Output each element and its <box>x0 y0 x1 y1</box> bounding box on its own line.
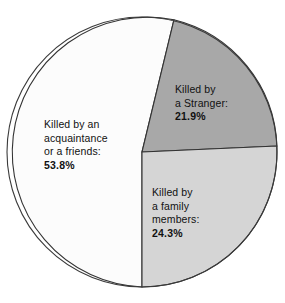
pie-chart-graphic <box>0 0 285 303</box>
pie-label-stranger-line-1: Killed by <box>175 83 228 97</box>
pie-value-family: 24.3% <box>152 227 199 241</box>
pie-label-family: Killed by a family members: 24.3% <box>152 186 199 240</box>
pie-value-stranger: 21.9% <box>175 110 228 124</box>
pie-label-stranger: Killed by a Stranger: 21.9% <box>175 83 228 124</box>
pie-label-family-line-1: Killed by <box>152 186 199 200</box>
pie-label-acquaintance-line-3: or a friends: <box>44 145 108 159</box>
pie-value-acquaintance: 53.8% <box>44 159 108 173</box>
pie-label-acquaintance-line-1: Killed by an <box>44 118 108 132</box>
pie-label-family-line-3: members: <box>152 213 199 227</box>
pie-label-stranger-line-2: a Stranger: <box>175 97 228 111</box>
pie-label-acquaintance: Killed by an acquaintance or a friends: … <box>44 118 108 172</box>
pie-label-family-line-2: a family <box>152 200 199 214</box>
pie-chart-figure: Killed by an acquaintance or a friends: … <box>0 0 285 303</box>
pie-label-acquaintance-line-2: acquaintance <box>44 132 108 146</box>
